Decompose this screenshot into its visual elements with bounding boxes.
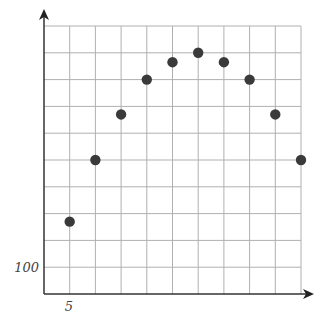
data-point (296, 155, 306, 165)
data-point (219, 57, 229, 67)
data-point (167, 57, 177, 67)
data-point (193, 48, 203, 58)
data-point (90, 155, 100, 165)
scatter-chart: 100 5 (0, 0, 328, 320)
x-tick-label-5: 5 (65, 299, 73, 314)
data-point (65, 216, 75, 226)
y-tick-label-100: 100 (14, 260, 39, 275)
data-point (142, 74, 152, 84)
data-points (65, 48, 307, 227)
data-point (244, 74, 254, 84)
data-point (270, 109, 280, 119)
data-point (116, 109, 126, 119)
